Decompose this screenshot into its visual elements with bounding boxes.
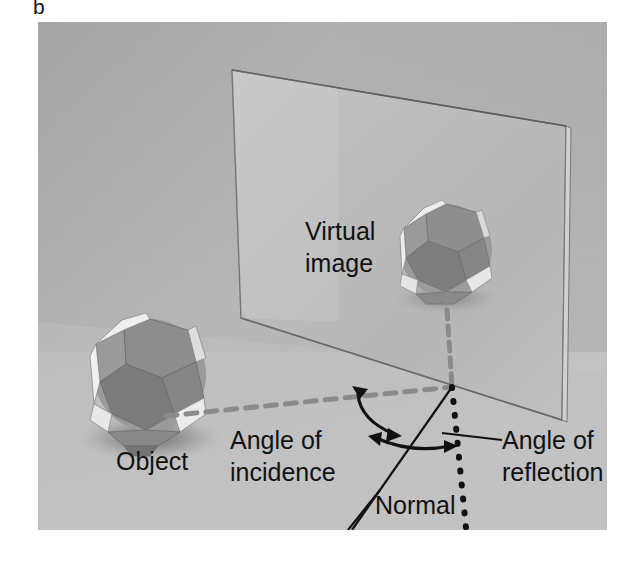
label-object: Object bbox=[116, 447, 188, 475]
photo-scene: Virtual image Object Angle of incidence … bbox=[38, 22, 607, 530]
mirror-highlight bbox=[232, 70, 338, 322]
label-virtual-image-line1: Virtual bbox=[305, 217, 375, 245]
label-angle-of-incidence-line1: Angle of bbox=[230, 426, 322, 454]
panel-label-b: b bbox=[33, 0, 45, 19]
label-angle-of-reflection-line2: reflection bbox=[502, 458, 603, 486]
label-angle-of-incidence-line2: incidence bbox=[230, 458, 336, 486]
figure-root: b bbox=[0, 0, 635, 573]
photograph: Virtual image Object Angle of incidence … bbox=[38, 22, 607, 530]
label-virtual-image-line2: image bbox=[305, 249, 373, 277]
label-angle-of-reflection-line1: Angle of bbox=[502, 426, 594, 454]
label-normal: Normal bbox=[375, 491, 456, 519]
